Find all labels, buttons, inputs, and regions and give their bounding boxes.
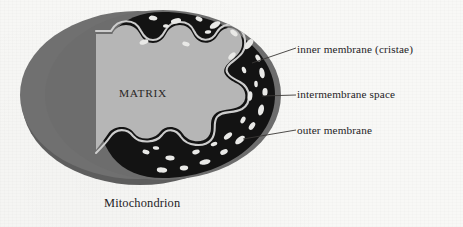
mitochondrion-diagram (0, 0, 463, 227)
callout-label-outer-membrane: outer membrane (297, 124, 372, 136)
figure-caption: Mitochondrion (104, 196, 180, 211)
callout-label-intermembrane-space: intermembrane space (297, 88, 395, 100)
callout-label-inner-membrane: inner membrane (cristae) (297, 43, 413, 55)
matrix-label: MATRIX (119, 87, 167, 99)
figure-page: MATRIX inner membrane (cristae) intermem… (0, 0, 463, 227)
